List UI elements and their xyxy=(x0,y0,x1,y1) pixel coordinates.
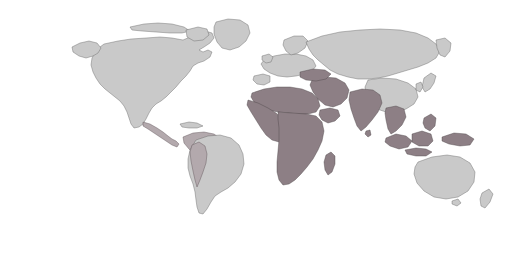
world-map-figure xyxy=(0,0,524,258)
world-map-svg xyxy=(0,0,524,258)
